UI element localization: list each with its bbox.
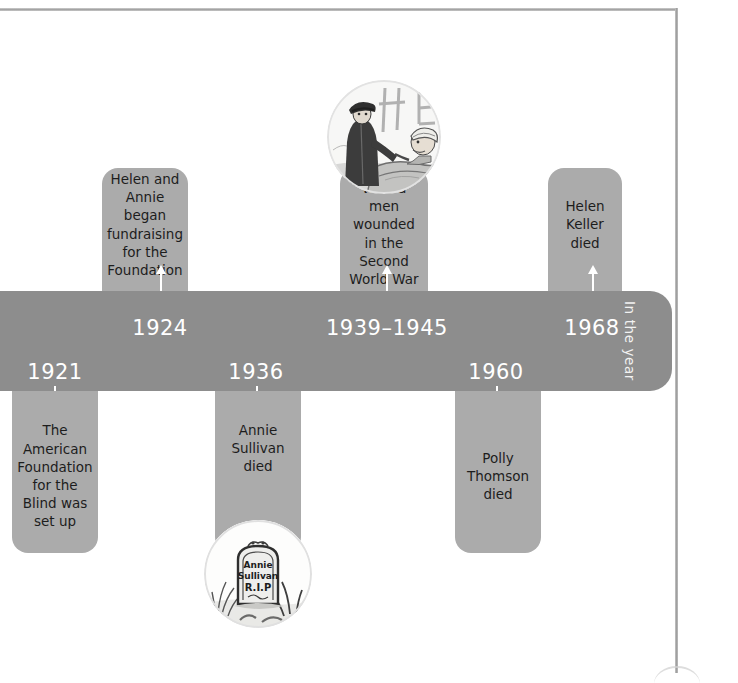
timeline-page: Helen and Annie began fundraising for th… (0, 0, 738, 683)
year-label-1936: 1936 (216, 360, 296, 384)
event-label-1936: Annie Sullivan died (215, 421, 301, 476)
connector-arrow-1939-1945 (382, 265, 392, 274)
timeline-bar: In the year (0, 291, 672, 391)
event-box-1921: The American Foundation for the Blind wa… (12, 391, 98, 553)
event-label-1924: Helen and Annie began fundraising for th… (102, 170, 188, 279)
timeline-axis-caption: In the year (622, 301, 638, 381)
gravestone-illustration: Annie Sullivan R.I.P (204, 520, 312, 628)
connector-arrow-1924 (156, 265, 166, 274)
gravestone-line-1: Annie (244, 560, 273, 570)
year-label-1968: 1968 (552, 316, 632, 340)
year-label-1921: 1921 (15, 360, 95, 384)
hospital-visit-illustration (327, 80, 441, 194)
year-label-1960: 1960 (456, 360, 536, 384)
event-label-1968: Helen Keller died (548, 197, 622, 252)
year-label-1939-1945: 1939–1945 (326, 316, 446, 340)
event-label-1960: Polly Thomson died (455, 449, 541, 504)
connector-arrow-1968 (588, 265, 598, 274)
page-edge-top (0, 8, 678, 11)
event-box-1960: Polly Thomson died (455, 391, 541, 553)
year-label-1924: 1924 (120, 316, 200, 340)
event-box-1924: Helen and Annie began fundraising for th… (102, 168, 188, 293)
event-box-1968: Helen Keller died (548, 168, 622, 293)
page-edge-bottom (654, 666, 700, 683)
event-label-1921: The American Foundation for the Blind wa… (12, 421, 98, 530)
gravestone-line-3: R.I.P (245, 582, 272, 593)
page-edge-right (675, 8, 678, 673)
gravestone-line-2: Sullivan (238, 571, 279, 581)
